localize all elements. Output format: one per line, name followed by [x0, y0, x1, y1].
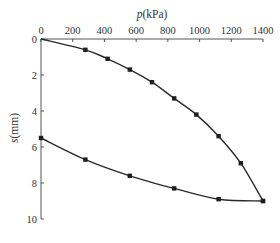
data-point-marker: [128, 67, 132, 71]
x-axis: 0200400600800100012001400: [38, 25, 273, 42]
data-point-marker: [239, 161, 243, 165]
x-tick-label: 1000: [189, 25, 210, 36]
svg-text:s(mm): s(mm): [8, 113, 21, 143]
y-tick-label: 10: [27, 214, 38, 225]
data-point-marker: [150, 80, 154, 84]
data-point-marker: [216, 134, 220, 138]
svg-text:p(kPa): p(kPa): [136, 8, 168, 21]
data-point-marker: [39, 136, 43, 140]
x-tick-label: 1400: [253, 25, 274, 36]
data-point-marker: [216, 197, 220, 201]
y-tick-label: 0: [32, 34, 37, 45]
data-point-marker: [105, 57, 109, 61]
data-point-marker: [172, 96, 176, 100]
data-point-marker: [172, 186, 176, 190]
x-tick-label: 600: [128, 25, 144, 36]
data-point-marker: [261, 199, 265, 203]
y-axis-title: s(mm): [8, 113, 21, 143]
series-loading: [41, 39, 265, 203]
loading-curve: [41, 39, 263, 201]
y-tick-label: 4: [32, 106, 38, 117]
series-unloading: [39, 136, 265, 203]
data-point-marker: [194, 112, 198, 116]
x-tick-label: 800: [160, 25, 176, 36]
x-tick-label: 1200: [221, 25, 242, 36]
x-tick-label: 200: [65, 25, 81, 36]
data-point-marker: [83, 157, 87, 161]
series-layer: [39, 39, 265, 203]
unloading-curve: [41, 138, 263, 201]
y-tick-label: 8: [32, 178, 37, 189]
y-axis: 0246810: [27, 34, 45, 225]
y-tick-label: 2: [32, 70, 37, 81]
x-tick-label: 0: [38, 25, 43, 36]
x-tick-label: 400: [97, 25, 113, 36]
y-tick-label: 6: [32, 142, 37, 153]
x-axis-title: p(kPa): [136, 8, 168, 21]
p-s-chart: p(kPa) s(mm) 0200400600800100012001400 0…: [0, 0, 280, 243]
data-point-marker: [128, 174, 132, 178]
data-point-marker: [83, 48, 87, 52]
